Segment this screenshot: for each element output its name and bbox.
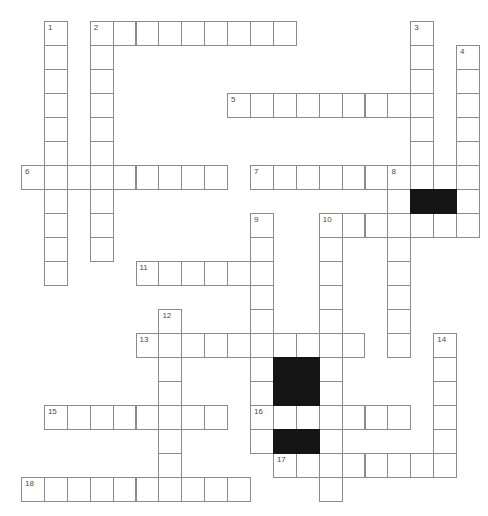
crossword-cell[interactable] <box>365 405 389 430</box>
crossword-cell[interactable] <box>158 381 182 406</box>
crossword-cell[interactable] <box>387 189 411 214</box>
crossword-cell[interactable] <box>387 93 411 118</box>
crossword-cell[interactable] <box>319 237 343 262</box>
crossword-cell[interactable]: 6 <box>21 165 45 190</box>
crossword-cell[interactable] <box>181 477 205 502</box>
crossword-cell[interactable] <box>319 453 343 478</box>
crossword-cell[interactable]: 5 <box>227 93 251 118</box>
crossword-cell[interactable] <box>44 117 68 142</box>
crossword-cell[interactable] <box>113 21 137 46</box>
crossword-cell[interactable] <box>273 333 297 358</box>
crossword-cell[interactable] <box>250 357 274 382</box>
crossword-cell[interactable] <box>433 429 457 454</box>
crossword-cell[interactable] <box>158 405 182 430</box>
crossword-cell[interactable] <box>158 165 182 190</box>
crossword-cell[interactable] <box>296 93 320 118</box>
crossword-cell[interactable] <box>410 213 434 238</box>
crossword-cell[interactable] <box>44 165 68 190</box>
crossword-cell[interactable] <box>456 165 480 190</box>
crossword-cell[interactable] <box>158 21 182 46</box>
crossword-cell[interactable] <box>250 93 274 118</box>
crossword-cell[interactable] <box>456 117 480 142</box>
crossword-cell[interactable]: 8 <box>387 165 411 190</box>
crossword-cell[interactable] <box>273 165 297 190</box>
crossword-cell[interactable] <box>387 285 411 310</box>
crossword-cell[interactable] <box>456 69 480 94</box>
crossword-cell[interactable] <box>44 69 68 94</box>
crossword-cell[interactable]: 16 <box>250 405 274 430</box>
crossword-cell[interactable] <box>250 309 274 334</box>
crossword-cell[interactable] <box>90 213 114 238</box>
crossword-cell[interactable] <box>342 93 366 118</box>
crossword-cell[interactable] <box>227 333 251 358</box>
crossword-cell[interactable]: 15 <box>44 405 68 430</box>
crossword-cell[interactable] <box>136 477 160 502</box>
crossword-cell[interactable] <box>342 405 366 430</box>
crossword-cell[interactable] <box>90 165 114 190</box>
crossword-cell[interactable] <box>90 405 114 430</box>
crossword-cell[interactable] <box>250 21 274 46</box>
crossword-cell[interactable] <box>158 477 182 502</box>
crossword-cell[interactable]: 14 <box>433 333 457 358</box>
crossword-cell[interactable] <box>319 405 343 430</box>
crossword-cell[interactable] <box>433 381 457 406</box>
crossword-cell[interactable] <box>433 405 457 430</box>
crossword-cell[interactable] <box>90 189 114 214</box>
crossword-cell[interactable] <box>158 261 182 286</box>
crossword-cell[interactable] <box>342 213 366 238</box>
crossword-cell[interactable] <box>456 93 480 118</box>
crossword-cell[interactable]: 2 <box>90 21 114 46</box>
crossword-cell[interactable] <box>319 261 343 286</box>
crossword-cell[interactable] <box>67 405 91 430</box>
crossword-cell[interactable] <box>387 213 411 238</box>
crossword-cell[interactable] <box>319 381 343 406</box>
crossword-cell[interactable] <box>44 141 68 166</box>
crossword-cell[interactable] <box>204 477 228 502</box>
crossword-cell[interactable] <box>204 21 228 46</box>
crossword-cell[interactable] <box>456 141 480 166</box>
crossword-cell[interactable] <box>158 333 182 358</box>
crossword-cell[interactable] <box>319 429 343 454</box>
crossword-cell[interactable] <box>181 405 205 430</box>
crossword-cell[interactable] <box>319 309 343 334</box>
crossword-cell[interactable] <box>44 189 68 214</box>
crossword-cell[interactable] <box>44 477 68 502</box>
crossword-cell[interactable] <box>296 453 320 478</box>
crossword-cell[interactable] <box>342 165 366 190</box>
crossword-cell[interactable] <box>90 237 114 262</box>
crossword-cell[interactable]: 10 <box>319 213 343 238</box>
crossword-cell[interactable]: 7 <box>250 165 274 190</box>
crossword-cell[interactable] <box>181 165 205 190</box>
crossword-cell[interactable] <box>250 237 274 262</box>
crossword-cell[interactable] <box>365 93 389 118</box>
crossword-cell[interactable] <box>273 93 297 118</box>
crossword-cell[interactable] <box>44 237 68 262</box>
crossword-cell[interactable] <box>342 333 366 358</box>
crossword-cell[interactable]: 1 <box>44 21 68 46</box>
crossword-cell[interactable] <box>342 453 366 478</box>
crossword-cell[interactable] <box>67 165 91 190</box>
crossword-cell[interactable] <box>67 477 91 502</box>
crossword-cell[interactable]: 9 <box>250 213 274 238</box>
crossword-cell[interactable] <box>410 165 434 190</box>
crossword-cell[interactable] <box>250 261 274 286</box>
crossword-cell[interactable] <box>433 357 457 382</box>
crossword-cell[interactable] <box>410 117 434 142</box>
crossword-cell[interactable] <box>273 21 297 46</box>
crossword-cell[interactable] <box>90 93 114 118</box>
crossword-cell[interactable] <box>296 333 320 358</box>
crossword-cell[interactable] <box>204 333 228 358</box>
crossword-cell[interactable] <box>113 405 137 430</box>
crossword-cell[interactable]: 17 <box>273 453 297 478</box>
crossword-cell[interactable] <box>90 141 114 166</box>
crossword-cell[interactable] <box>90 477 114 502</box>
crossword-cell[interactable] <box>319 477 343 502</box>
crossword-cell[interactable] <box>433 453 457 478</box>
crossword-cell[interactable] <box>319 285 343 310</box>
crossword-cell[interactable] <box>181 261 205 286</box>
crossword-cell[interactable] <box>204 165 228 190</box>
crossword-cell[interactable]: 4 <box>456 45 480 70</box>
crossword-cell[interactable] <box>113 477 137 502</box>
crossword-cell[interactable] <box>433 165 457 190</box>
crossword-cell[interactable] <box>387 333 411 358</box>
